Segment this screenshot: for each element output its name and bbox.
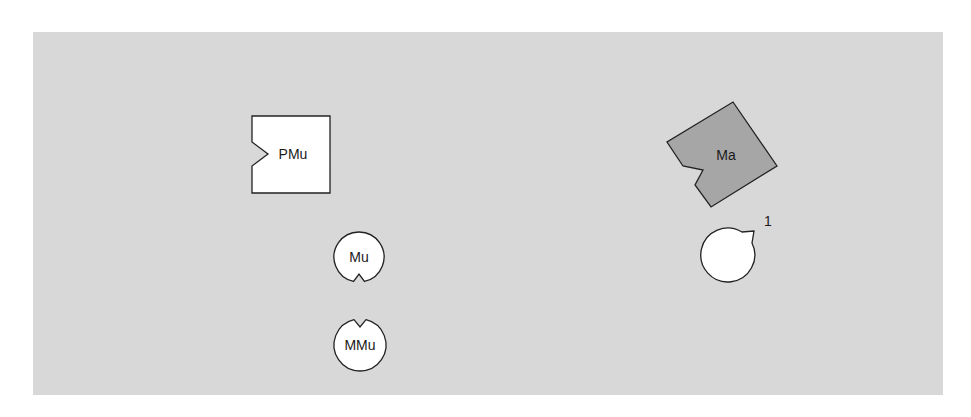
ma-label: Ma [716, 147, 736, 163]
diagram-panel [33, 32, 943, 395]
mmu-label: MMu [344, 337, 375, 353]
mmu-shape: MMu [334, 320, 386, 371]
diagram-canvas: PMu Mu MMu Ma 1 [0, 0, 971, 417]
one-outline [701, 228, 755, 282]
pmu-label: PMu [279, 146, 308, 162]
mu-label: Mu [349, 249, 368, 265]
mu-shape: Mu [334, 232, 384, 281]
one-label: 1 [764, 213, 772, 229]
